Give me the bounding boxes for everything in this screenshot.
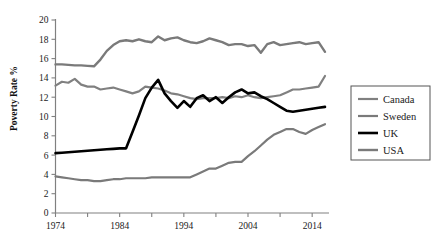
legend-label-canada: Canada	[383, 94, 415, 105]
y-tick-label: 16	[39, 54, 49, 64]
series-line-uk	[56, 80, 326, 153]
x-tick-label: 1984	[110, 221, 129, 231]
x-tick-label: 2014	[303, 221, 322, 231]
y-axis-title: Poverty Rate %	[9, 66, 19, 131]
y-tick-label: 8	[44, 131, 49, 141]
y-tick-label: 10	[39, 112, 49, 122]
x-tick-label: 1974	[46, 221, 65, 231]
y-tick-label: 2	[44, 189, 49, 199]
series-line-sweden	[56, 124, 326, 181]
poverty-rate-line-chart: 0246810121416182019741984199420042014Pov…	[0, 0, 438, 251]
y-tick-label: 12	[39, 93, 49, 103]
y-tick-label: 18	[39, 35, 49, 45]
y-tick-label: 20	[39, 15, 49, 25]
y-tick-label: 6	[44, 151, 49, 161]
legend-label-usa: USA	[383, 145, 404, 156]
legend-label-sweden: Sweden	[383, 111, 417, 122]
y-axis-title-group: Poverty Rate %	[9, 66, 19, 131]
series-line-usa	[56, 36, 326, 66]
series-line-canada	[56, 76, 326, 99]
legend-label-uk: UK	[383, 128, 399, 139]
y-tick-label: 4	[44, 170, 49, 180]
x-tick-label: 2004	[239, 221, 258, 231]
y-tick-label: 14	[39, 73, 49, 83]
x-tick-label: 1994	[174, 221, 193, 231]
y-tick-label: 0	[44, 208, 49, 218]
chart-canvas: 0246810121416182019741984199420042014Pov…	[0, 0, 438, 251]
